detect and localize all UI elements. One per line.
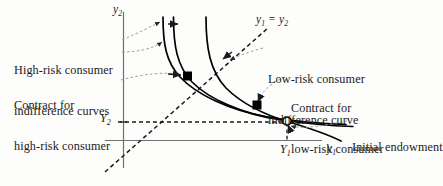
tick-label-Y2-sub: 2 bbox=[107, 118, 111, 127]
diagonal-45-line bbox=[105, 28, 268, 172]
label-line: Contract for bbox=[14, 99, 110, 113]
tick-label-Y2: Y2 bbox=[100, 112, 111, 128]
leader-low-risk-curve bbox=[230, 48, 263, 60]
diag-right-sub: 2 bbox=[284, 19, 288, 28]
label-initial-endowment: Initial endowment bbox=[352, 114, 443, 182]
line-y1-equals-y2 bbox=[105, 28, 268, 172]
arrow-contract-high-risk bbox=[168, 74, 181, 75]
marker-contract-high-risk[interactable] bbox=[183, 72, 192, 81]
tick-label-Y1-sub: 1 bbox=[287, 149, 291, 158]
tick-label-Y2-text: Y bbox=[100, 111, 107, 125]
label-contract-high-risk-consumer: Contract for high-risk consumer bbox=[14, 72, 110, 181]
axis-label-y1-sub: 1 bbox=[332, 148, 336, 157]
axis-label-y1: y1 bbox=[327, 142, 336, 158]
arrow-low-risk-curve bbox=[223, 52, 232, 59]
axis-label-y2-sub: 2 bbox=[118, 9, 122, 18]
marker-contract-low-risk[interactable] bbox=[253, 101, 262, 110]
label-diagonal-y1-equals-y2: y1 = y2 bbox=[256, 13, 288, 29]
diag-equals: = bbox=[265, 13, 279, 25]
figure-insurance-contracts: High-risk consumer indifference curves C… bbox=[0, 0, 443, 186]
leader-high-risk-curve-1 bbox=[122, 22, 160, 40]
tick-label-Y1: Y1 bbox=[280, 143, 291, 159]
label-line: Initial endowment bbox=[352, 141, 443, 155]
tick-label-Y1-text: Y bbox=[280, 142, 287, 156]
axis-label-y2: y2 bbox=[113, 3, 122, 19]
leader-high-risk-curve-2 bbox=[122, 42, 162, 52]
label-line: high-risk consumer bbox=[14, 140, 110, 154]
